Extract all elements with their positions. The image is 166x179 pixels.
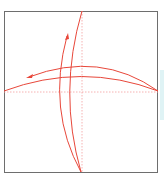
edge-strip — [160, 70, 164, 120]
diagram-canvas — [0, 0, 166, 179]
paper-square — [5, 12, 158, 173]
fold-diagram — [0, 0, 166, 179]
